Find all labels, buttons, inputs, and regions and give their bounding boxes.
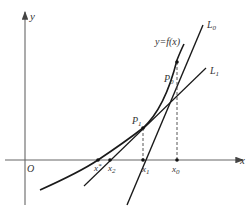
tangent-line-L0 [127, 25, 203, 205]
line-L1-label: L1 [209, 65, 219, 78]
x-star-label: x* [93, 162, 102, 173]
x0-label: x0 [171, 164, 180, 176]
tick-x0 [175, 158, 179, 162]
tick-x1 [141, 158, 145, 162]
x2-label: x2 [107, 163, 116, 175]
y-axis-label: y [29, 10, 35, 22]
point-P1 [141, 126, 145, 130]
line-L0-label: L0 [206, 19, 217, 32]
point-P0 [175, 60, 179, 64]
curve-label: y=f(x) [154, 36, 181, 48]
x1-label: x1 [141, 164, 150, 176]
tick-x2 [108, 158, 112, 162]
origin-label: O [27, 163, 34, 174]
x-axis-label: x [239, 154, 245, 166]
point-P1-label: P1 [131, 115, 142, 128]
newton-method-diagram: y x O y=f(x) L0 L1 P0 P1 x* x2 x1 x0 [0, 0, 252, 217]
